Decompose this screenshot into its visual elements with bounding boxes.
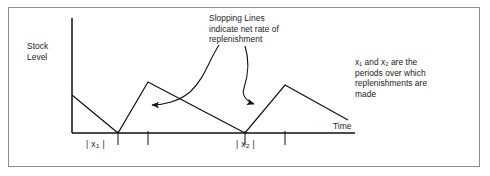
period-label-x1: | x1 | (86, 139, 105, 149)
annotation-periods: x₁ and x₂ are the periods over which rep… (355, 57, 427, 99)
period-label-x2-bracket-left: | (236, 139, 239, 149)
figure-container: Stock Level Time Slopping Lines indicate… (0, 0, 490, 176)
period-label-x1-bracket-right: | (102, 139, 105, 149)
leader-arrow-second-slope (243, 46, 254, 104)
leader-arrow-first-slope (152, 45, 219, 105)
period-label-x2-bracket-right: | (252, 139, 255, 149)
period-label-x2: | x2 | (236, 139, 255, 149)
annotation-slopping-lines: Slopping Lines indicate net rate of repl… (209, 13, 279, 45)
period-label-x1-bracket-left: | (86, 139, 89, 149)
stock-level-line (72, 82, 348, 133)
y-axis-label: Stock Level (27, 41, 48, 62)
x-axis-label: Time (333, 121, 352, 132)
period-label-x2-subscript: 2 (246, 142, 250, 149)
period-label-x1-subscript: 1 (96, 142, 100, 149)
